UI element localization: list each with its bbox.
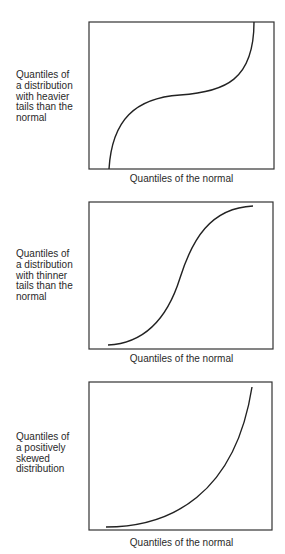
- y-label-line: a positively: [16, 443, 88, 454]
- x-axis-label-heavier-tails: Quantiles of the normal: [89, 173, 274, 184]
- qq-curve-positively-skewed: [106, 387, 252, 527]
- x-axis-label-positively-skewed: Quantiles of the normal: [89, 537, 274, 548]
- y-axis-label-heavier-tails: Quantiles of a distribution with heavier…: [16, 70, 88, 124]
- y-axis-label-thinner-tails: Quantiles of a distribution with thinner…: [16, 249, 88, 303]
- y-label-line: normal: [16, 292, 88, 303]
- qq-curve-thinner-tails: [108, 206, 253, 345]
- plot-frame-positively-skewed: [89, 382, 272, 530]
- y-axis-label-positively-skewed: Quantiles of a positively skewed distrib…: [16, 432, 88, 475]
- y-label-line: distribution: [16, 464, 88, 475]
- y-label-line: a distribution: [16, 260, 88, 271]
- y-label-line: a distribution: [16, 81, 88, 92]
- qq-curve-heavier-tails: [109, 22, 254, 169]
- y-label-line: normal: [16, 113, 88, 124]
- x-axis-label-thinner-tails: Quantiles of the normal: [89, 353, 274, 364]
